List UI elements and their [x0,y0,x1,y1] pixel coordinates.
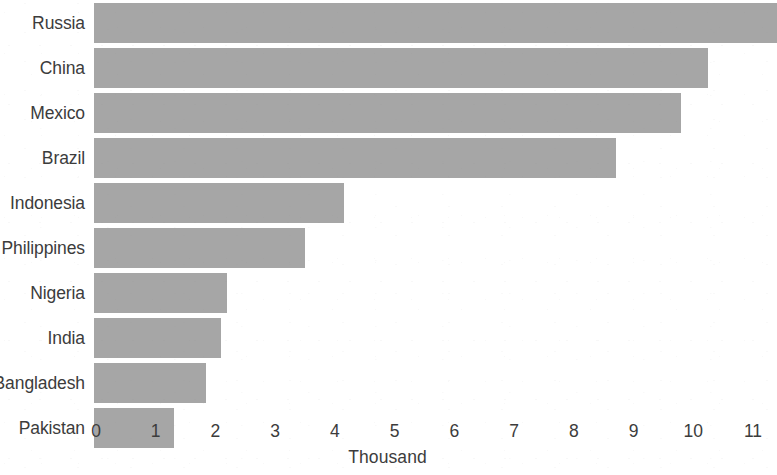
bar-5 [94,228,305,268]
bar-8 [94,363,206,403]
category-label-4: Indonesia [10,183,94,223]
x-tick-1: 1 [151,418,161,444]
x-tick-9: 9 [629,418,639,444]
x-tick-7: 7 [509,418,519,444]
x-tick-6: 6 [449,418,459,444]
category-label-8: Bangladesh [0,363,94,403]
table-row: Philippines [0,228,775,268]
x-tick-3: 3 [270,418,280,444]
x-tick-4: 4 [330,418,340,444]
table-row: Bangladesh [0,363,775,403]
category-label-3: Brazil [42,138,94,178]
x-axis: 0 1 2 3 4 5 6 7 8 9 10 11 [0,418,775,450]
category-label-2: Mexico [30,93,94,133]
bar-3 [94,138,616,178]
category-label-5: Philippines [1,228,94,268]
x-axis-title: Thousand [0,447,775,468]
table-row: Indonesia [0,183,775,223]
bar-1 [94,48,708,88]
table-row: Russia [0,3,775,43]
x-tick-5: 5 [390,418,400,444]
table-row: Mexico [0,93,775,133]
table-row: Brazil [0,138,775,178]
x-tick-11: 11 [744,418,762,444]
x-tick-0: 0 [91,418,101,444]
plot-area: Russia China Mexico Brazil Indonesia Phi… [0,0,775,418]
bar-7 [94,318,221,358]
table-row: China [0,48,775,88]
bar-4 [94,183,344,223]
category-label-1: China [40,48,94,88]
bar-0 [94,3,777,43]
x-tick-8: 8 [569,418,579,444]
table-row: Nigeria [0,273,775,313]
table-row: India [0,318,775,358]
bar-6 [94,273,227,313]
category-label-6: Nigeria [30,273,94,313]
category-label-7: India [48,318,94,358]
x-tick-10: 10 [684,418,703,444]
category-label-0: Russia [32,3,94,43]
x-tick-2: 2 [211,418,221,444]
bar-2 [94,93,681,133]
